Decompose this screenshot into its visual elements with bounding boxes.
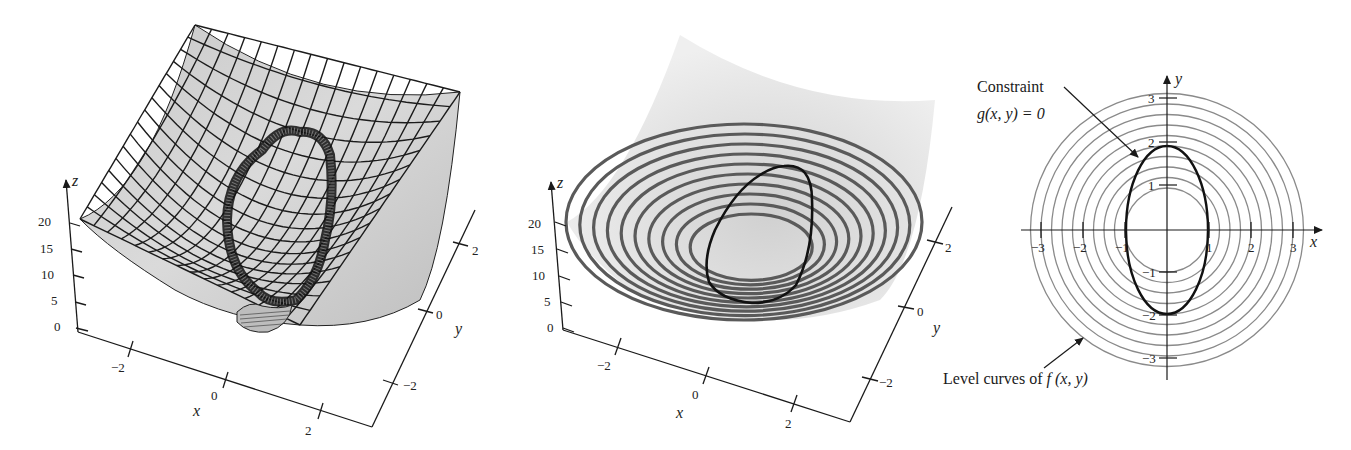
- x-axis-label: x: [1309, 233, 1317, 250]
- z-tick-5: 5: [544, 294, 551, 309]
- z-tick-15: 15: [531, 242, 544, 257]
- x-tick-1: 1: [1206, 240, 1213, 255]
- y-tick-neg2: −2: [879, 375, 893, 390]
- y-tick-2: 2: [472, 243, 479, 258]
- z-axis: [66, 180, 88, 332]
- y-axis-label: y: [453, 320, 463, 338]
- z-tick-15: 15: [40, 241, 53, 256]
- z-tick-20: 20: [38, 214, 51, 229]
- y-tick-neg3: −3: [1142, 351, 1156, 366]
- y-tick-2: 2: [1148, 135, 1155, 150]
- x-tick-neg2: −2: [111, 360, 125, 375]
- z-axis-label: z: [556, 174, 564, 191]
- z-tick-0: 0: [547, 320, 554, 335]
- y-tick-1: 1: [1148, 178, 1155, 193]
- y-tick-neg2: −2: [1142, 308, 1156, 323]
- x-axis-label: x: [192, 402, 200, 419]
- x-tick-neg2: −2: [1073, 240, 1087, 255]
- x-tick-0: 0: [692, 387, 699, 402]
- y-tick-neg1: −1: [1142, 265, 1156, 280]
- x-axis: [563, 330, 850, 422]
- x-tick-2: 2: [785, 416, 792, 431]
- figure-canvas: z 20 15 10 5 0 −2 0 2 x −2 0 2 y: [0, 0, 1351, 450]
- constraint-annotation-equation: g(x, y) = 0: [977, 105, 1045, 123]
- y-tick-3: 3: [1148, 91, 1155, 106]
- x-tick-2: 2: [1248, 240, 1255, 255]
- y-tick-0: 0: [436, 307, 443, 322]
- level-curves-annotation: Level curves of f (x, y): [943, 370, 1088, 388]
- panel-surface-cylinder: z 20 15 10 5 0 −2 0 2 x −2 0 2 y: [38, 25, 479, 438]
- y-axis-label: y: [931, 319, 941, 337]
- y-tick-neg2: −2: [403, 378, 417, 393]
- x-tick-3: 3: [1290, 240, 1297, 255]
- panel-surface-level-curves: z 20 15 10 5 0 −2 0 2 x −2 0 2 y: [528, 35, 952, 431]
- y-tick-0: 0: [917, 304, 924, 319]
- x-axis-label: x: [675, 404, 683, 421]
- x-tick-0: 0: [211, 388, 218, 403]
- z-tick-0: 0: [54, 319, 61, 334]
- z-axis-label: z: [71, 172, 79, 189]
- constraint-annotation-title: Constraint: [977, 78, 1044, 95]
- x-axis: [78, 332, 372, 427]
- z-tick-10: 10: [41, 267, 54, 282]
- z-tick-10: 10: [532, 268, 545, 283]
- z-axis: [551, 182, 574, 332]
- panel-contour-plot: −3 −2 −1 1 2 3 x 3 2 1 −1 −2 −3 y Constr…: [943, 70, 1322, 388]
- x-tick-neg1: −1: [1115, 240, 1129, 255]
- x-tick-neg2: −2: [597, 358, 611, 373]
- y-tick-2: 2: [945, 240, 952, 255]
- level-curves-arrow: [1044, 338, 1083, 368]
- z-tick-20: 20: [528, 216, 541, 231]
- y-axis-label: y: [1173, 70, 1183, 88]
- z-tick-5: 5: [51, 293, 58, 308]
- x-tick-neg3: −3: [1031, 240, 1045, 255]
- x-tick-2: 2: [305, 423, 312, 438]
